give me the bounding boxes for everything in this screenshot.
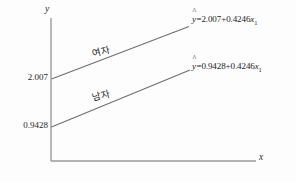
equation-slope-female: 0.4246 [226,14,250,24]
hat-accent-icon: ^ [193,55,197,63]
y-tick-label-lower: 0.9428 [2,120,48,130]
plot-canvas [0,0,296,182]
x-axis-label: x [259,152,263,162]
equation-subscript-female: 1 [254,19,257,26]
equation-intercept-male: 0.9428 [201,61,225,71]
equation-label-male: ^y=0.9428+0.4246x1 [192,61,262,73]
y-axis-label: y [45,4,49,14]
equation-intercept-female: 2.007 [201,14,221,24]
equation-lhs-male: ^y [192,61,196,71]
regression-line-male [52,70,191,127]
regression-line-female [52,27,190,80]
equation-slope-male: 0.4246 [231,61,255,71]
y-tick-label-upper: 2.007 [6,72,48,82]
equation-label-female: ^y=2.007+0.4246x1 [192,14,257,26]
hat-accent-icon: ^ [193,8,197,16]
regression-figure: y x 2.007 0.9428 ^y=2.007+0.4246x1 ^y=0.… [0,0,296,182]
equation-subscript-male: 1 [259,66,262,73]
equation-lhs-female: ^y [192,14,196,24]
